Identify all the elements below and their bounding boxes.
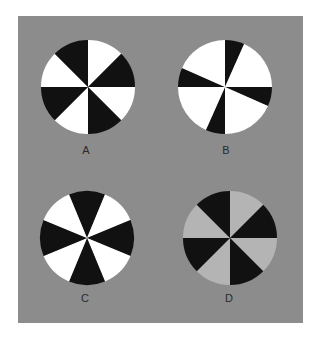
pinwheel-a: [41, 40, 135, 134]
pinwheel-figure: [0, 0, 317, 338]
label-a: A: [82, 144, 89, 156]
pinwheel-d: [183, 191, 277, 285]
pinwheel-b: [178, 40, 272, 134]
label-c: C: [81, 292, 89, 304]
pinwheel-c: [40, 191, 134, 285]
label-b: B: [222, 144, 229, 156]
label-d: D: [225, 292, 233, 304]
